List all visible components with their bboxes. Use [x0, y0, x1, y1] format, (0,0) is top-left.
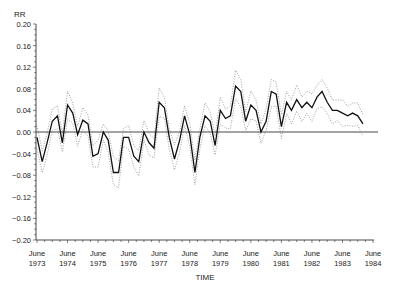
- x-tick-month: June: [212, 249, 228, 258]
- x-tick-month: June: [273, 249, 289, 258]
- y-tick-label: −0.20: [12, 236, 31, 245]
- y-tick-label: −0.16: [12, 214, 31, 223]
- y-tick-label: 0.12: [16, 63, 31, 72]
- y-tick-label: 0.08: [16, 85, 31, 94]
- y-axis: 0.200.160.120.080.040.00−0.04−0.08−0.12−…: [12, 20, 36, 245]
- y-tick-label: 0.16: [16, 42, 31, 51]
- x-tick-year: 1975: [90, 259, 107, 268]
- y-tick-label: 0.20: [16, 20, 31, 29]
- x-tick-month: June: [182, 249, 198, 258]
- y-axis-label: RR: [14, 10, 26, 19]
- y-tick-label: 0.04: [16, 106, 31, 115]
- x-tick-year: 1976: [120, 259, 137, 268]
- y-tick-label: −0.04: [12, 150, 31, 159]
- x-tick-month: June: [334, 249, 350, 258]
- x-tick-month: June: [121, 249, 137, 258]
- x-tick-month: June: [365, 249, 381, 258]
- upper-confidence-band: [37, 70, 363, 160]
- y-tick-label: −0.08: [12, 171, 31, 180]
- x-tick-month: June: [243, 249, 259, 258]
- x-tick-year: 1983: [334, 259, 351, 268]
- x-tick-month: June: [151, 249, 167, 258]
- x-tick-month: June: [90, 249, 106, 258]
- x-tick-year: 1978: [181, 259, 198, 268]
- rr-time-series-chart: RR 0.200.160.120.080.040.00−0.04−0.08−0.…: [0, 0, 396, 284]
- x-axis: June1973June1974June1975June1976June1977…: [29, 240, 382, 268]
- x-tick-month: June: [304, 249, 320, 258]
- lower-confidence-band: [37, 99, 363, 188]
- y-tick-label: −0.12: [12, 193, 31, 202]
- x-tick-month: June: [59, 249, 75, 258]
- x-tick-year: 1974: [59, 259, 76, 268]
- x-tick-year: 1973: [29, 259, 46, 268]
- x-axis-label: TIME: [195, 273, 214, 282]
- x-tick-year: 1981: [273, 259, 290, 268]
- y-tick-label: 0.00: [16, 128, 31, 137]
- x-tick-month: June: [29, 249, 45, 258]
- x-tick-year: 1984: [365, 259, 382, 268]
- x-tick-year: 1980: [243, 259, 260, 268]
- x-tick-year: 1977: [151, 259, 168, 268]
- x-tick-year: 1982: [304, 259, 321, 268]
- x-tick-year: 1979: [212, 259, 229, 268]
